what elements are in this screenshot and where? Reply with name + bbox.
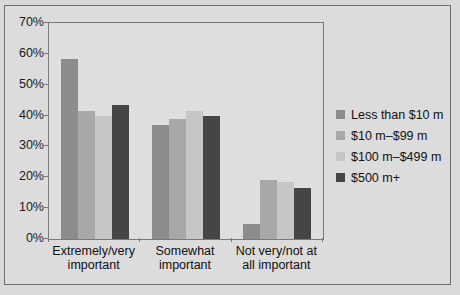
bar: [112, 105, 129, 239]
bar: [243, 224, 260, 239]
bar-group: [140, 23, 231, 239]
y-axis-tick-label: 30%: [4, 140, 44, 150]
x-axis-category-line: important: [139, 258, 230, 272]
bar: [260, 180, 277, 239]
x-axis-category-line: Not very/not at: [231, 244, 322, 258]
x-axis-category-label: Extremely/veryimportant: [48, 244, 139, 272]
y-axis-tick-mark: [44, 145, 48, 146]
bar: [186, 111, 203, 239]
x-axis-category-line: all important: [231, 258, 322, 272]
y-axis-tick-label: 20%: [4, 171, 44, 181]
legend-item[interactable]: $10 m–$99 m: [336, 125, 456, 146]
y-axis-tick-mark: [44, 115, 48, 116]
x-axis-tick-mark: [48, 238, 49, 242]
legend-item[interactable]: $500 m+: [336, 167, 456, 188]
plot-area: [48, 22, 324, 240]
x-axis-category-label: Not very/not atall important: [231, 244, 322, 272]
y-axis-tick-mark: [44, 84, 48, 85]
legend-swatch-icon: [336, 173, 345, 182]
legend-item-label: $100 m–$499 m: [351, 150, 441, 164]
x-axis-tick-mark: [322, 238, 323, 242]
bar: [78, 111, 95, 239]
bar: [294, 188, 311, 239]
y-axis-tick-label: 10%: [4, 202, 44, 212]
y-axis-tick-mark: [44, 22, 48, 23]
y-axis-tick-mark: [44, 207, 48, 208]
legend-swatch-icon: [336, 152, 345, 161]
bar: [169, 119, 186, 239]
legend-swatch-icon: [336, 131, 345, 140]
y-axis-tick-mark: [44, 53, 48, 54]
bar: [203, 116, 220, 239]
legend-item-label: $10 m–$99 m: [351, 129, 427, 143]
y-axis-tick-label: 40%: [4, 110, 44, 120]
x-axis-tick-mark: [139, 238, 140, 242]
x-axis-tick-mark: [231, 238, 232, 242]
bar-group: [232, 23, 323, 239]
x-axis-category-line: Extremely/very: [48, 244, 139, 258]
y-axis-tick-label: 0%: [4, 233, 44, 243]
y-axis-tick-label: 60%: [4, 48, 44, 58]
chart-figure: 70%60%50%40%30%20%10%0% Extremely/veryim…: [0, 0, 460, 295]
chart-legend: Less than $10 m$10 m–$99 m$100 m–$499 m$…: [336, 104, 456, 188]
bar: [61, 59, 78, 240]
bar: [277, 182, 294, 239]
y-axis-tick-label: 70%: [4, 17, 44, 27]
x-axis-category-line: Somewhat: [139, 244, 230, 258]
y-axis: 70%60%50%40%30%20%10%0%: [0, 0, 44, 295]
bar: [95, 116, 112, 239]
y-axis-tick-label: 50%: [4, 79, 44, 89]
legend-item-label: Less than $10 m: [351, 108, 443, 122]
y-axis-tick-mark: [44, 176, 48, 177]
bar-group: [49, 23, 140, 239]
legend-item[interactable]: Less than $10 m: [336, 104, 456, 125]
x-axis-category-label: Somewhatimportant: [139, 244, 230, 272]
bar: [152, 125, 169, 239]
legend-swatch-icon: [336, 110, 345, 119]
x-axis-category-line: important: [48, 258, 139, 272]
legend-item-label: $500 m+: [351, 171, 400, 185]
legend-item[interactable]: $100 m–$499 m: [336, 146, 456, 167]
